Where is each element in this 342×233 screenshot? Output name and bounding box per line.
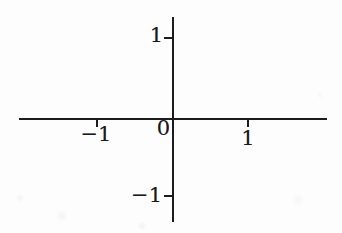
x-tick-label-plus-1: 1 — [226, 128, 270, 149]
origin-label: 0 — [150, 118, 170, 139]
y-axis-line — [172, 17, 174, 222]
y-tick-label-minus-1: −1 — [118, 185, 162, 206]
y-tick-plus-1 — [164, 37, 173, 39]
y-tick-label-plus-1: 1 — [140, 25, 163, 46]
x-tick-label-minus-1: −1 — [74, 124, 118, 145]
y-tick-minus-1 — [164, 195, 173, 197]
coordinate-plane: −1 0 1 1 −1 — [0, 0, 342, 233]
